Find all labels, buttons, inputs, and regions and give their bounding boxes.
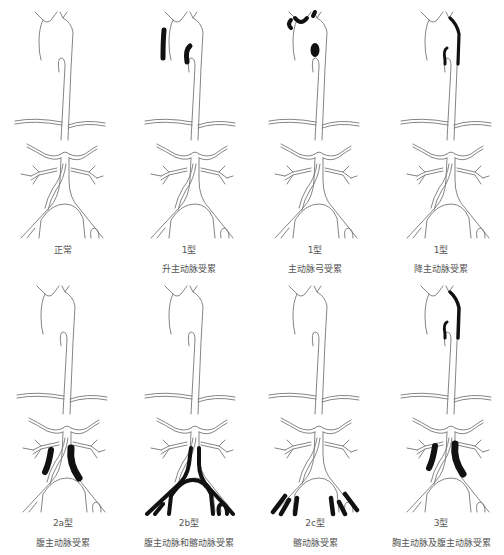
lesion-ascending-aorta (163, 30, 164, 58)
type-label: 2b型 (126, 516, 252, 529)
panel-type2c: 2c型 髂动脉受累 (252, 278, 378, 555)
type-label: 1型 (378, 243, 504, 256)
lesion-abdominal-left (429, 446, 435, 468)
aorta-diagram (378, 278, 504, 518)
lesion-abdominal-right (455, 444, 463, 474)
lesion-descending-inner (444, 322, 447, 338)
lesion-descending-outer (450, 18, 459, 64)
aorta-diagram (126, 278, 252, 518)
type-label: 3型 (378, 516, 504, 529)
type-label: 2a型 (0, 516, 126, 529)
lesion-arch-inner (311, 43, 320, 57)
panel-caption: 升主动脉受累 (126, 262, 252, 275)
panel-type2b: 2b型 腹主动脉和髂动脉受累 (126, 278, 252, 555)
type-label: 2c型 (252, 516, 378, 529)
lesion-iliac-branches (155, 504, 227, 514)
panel-caption: 髂动脉受累 (252, 536, 378, 549)
panel-caption: 胸主动脉及腹主动脉受累 (378, 536, 504, 549)
lesion-right-iliac (199, 448, 233, 514)
panel-type1-descending: 1型 降主动脉受累 (378, 0, 504, 280)
lesion-abdominal-right (71, 448, 79, 478)
lesion-descending-outer (450, 292, 459, 338)
aorta-diagram (252, 278, 378, 518)
lesion-abdominal-left (45, 450, 51, 472)
aorta-diagram (378, 0, 504, 240)
panel-caption: 腹主动脉受累 (0, 536, 126, 549)
lesion-left-internal-iliac (295, 498, 297, 514)
panel-type1-arch: 1型 主动脉弓受累 (252, 0, 378, 280)
lesion-descending-inner (444, 48, 447, 64)
lesion-arch-branch-right (313, 12, 315, 16)
panel-normal: 正常 (0, 0, 126, 270)
type-label: 1型 (252, 243, 378, 256)
panel-caption: 腹主动脉和髂动脉受累 (126, 536, 252, 549)
panel-caption: 主动脉弓受累 (252, 262, 378, 275)
panel-type2a: 2a型 腹主动脉受累 (0, 278, 126, 555)
panel-type1-ascending: 1型 升主动脉受累 (126, 0, 252, 280)
panel-caption: 正常 (0, 243, 126, 256)
panel-type3: 3型 胸主动脉及腹主动脉受累 (378, 278, 504, 555)
aorta-diagram (126, 0, 252, 240)
aorta-diagram (252, 0, 378, 240)
lesion-arch-branches (289, 18, 307, 28)
panel-caption: 降主动脉受累 (378, 262, 504, 275)
lesion-left-external-iliac (273, 496, 289, 514)
aorta-diagram (0, 278, 126, 518)
type-label: 1型 (126, 243, 252, 256)
aorta-diagram (0, 0, 126, 240)
